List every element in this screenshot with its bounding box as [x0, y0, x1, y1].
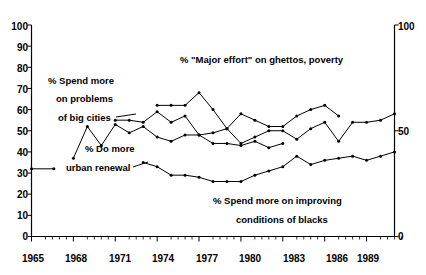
- data-point: [128, 119, 131, 122]
- data-point: [337, 140, 340, 143]
- data-point: [309, 127, 312, 130]
- data-point: [365, 159, 368, 162]
- data-point: [295, 114, 298, 117]
- series-1: [114, 110, 396, 145]
- axes-group: [32, 25, 395, 237]
- data-point: [184, 114, 187, 117]
- data-point: [323, 104, 326, 107]
- leader-urban-renewal: [133, 162, 148, 167]
- data-point: [184, 104, 187, 107]
- data-point: [156, 136, 159, 139]
- data-point: [225, 180, 228, 183]
- series-3: [142, 150, 396, 183]
- data-point: [184, 174, 187, 177]
- plot-area: [0, 0, 426, 275]
- data-point: [86, 125, 89, 128]
- data-point: [295, 155, 298, 158]
- data-point: [267, 125, 270, 128]
- chart-container: 100 90 80 70 60 50 40 30 20 10 0 100 50 …: [0, 0, 426, 275]
- series-group: [30, 91, 396, 183]
- data-point: [351, 121, 354, 124]
- data-point: [253, 119, 256, 122]
- data-point: [128, 131, 131, 134]
- data-point: [253, 136, 256, 139]
- data-point: [52, 167, 55, 170]
- data-point: [156, 110, 159, 113]
- data-point: [393, 150, 396, 153]
- data-point: [239, 144, 242, 147]
- data-point: [239, 180, 242, 183]
- data-point: [114, 119, 117, 122]
- data-point: [170, 104, 173, 107]
- series-line-1: [115, 112, 394, 144]
- data-point: [170, 121, 173, 124]
- data-point: [212, 108, 215, 111]
- series-line-2: [73, 124, 282, 158]
- data-point: [30, 167, 33, 170]
- data-point: [142, 121, 145, 124]
- data-point: [225, 142, 228, 145]
- series-line-3: [143, 152, 394, 182]
- data-point: [337, 114, 340, 117]
- data-point: [156, 104, 159, 107]
- data-point: [309, 163, 312, 166]
- ticks-group: [28, 25, 402, 242]
- data-point: [156, 165, 159, 168]
- data-point: [281, 125, 284, 128]
- data-point: [72, 157, 75, 160]
- data-point: [253, 140, 256, 143]
- leader-big-cities: [116, 114, 136, 117]
- data-point: [212, 180, 215, 183]
- data-point: [267, 129, 270, 132]
- data-point: [225, 127, 228, 130]
- data-point: [212, 131, 215, 134]
- data-point: [379, 119, 382, 122]
- data-point: [323, 159, 326, 162]
- data-point: [295, 138, 298, 141]
- data-point: [198, 133, 201, 136]
- data-point: [170, 174, 173, 177]
- data-point: [365, 121, 368, 124]
- data-point: [184, 133, 187, 136]
- data-point: [323, 121, 326, 124]
- data-point: [267, 169, 270, 172]
- data-point: [351, 155, 354, 158]
- data-point: [281, 142, 284, 145]
- series-lead-stub: [30, 167, 55, 170]
- data-point: [379, 155, 382, 158]
- data-point: [393, 112, 396, 115]
- data-point: [212, 142, 215, 145]
- series-2: [72, 123, 284, 160]
- series-0: [156, 91, 341, 130]
- data-point: [114, 123, 117, 126]
- data-point: [267, 146, 270, 149]
- data-point: [309, 108, 312, 111]
- data-point: [281, 165, 284, 168]
- data-point: [142, 125, 145, 128]
- data-point: [281, 129, 284, 132]
- data-point: [170, 140, 173, 143]
- data-point: [198, 176, 201, 179]
- data-point: [239, 112, 242, 115]
- data-point: [337, 157, 340, 160]
- data-point: [198, 91, 201, 94]
- data-point: [100, 144, 103, 147]
- data-point: [253, 174, 256, 177]
